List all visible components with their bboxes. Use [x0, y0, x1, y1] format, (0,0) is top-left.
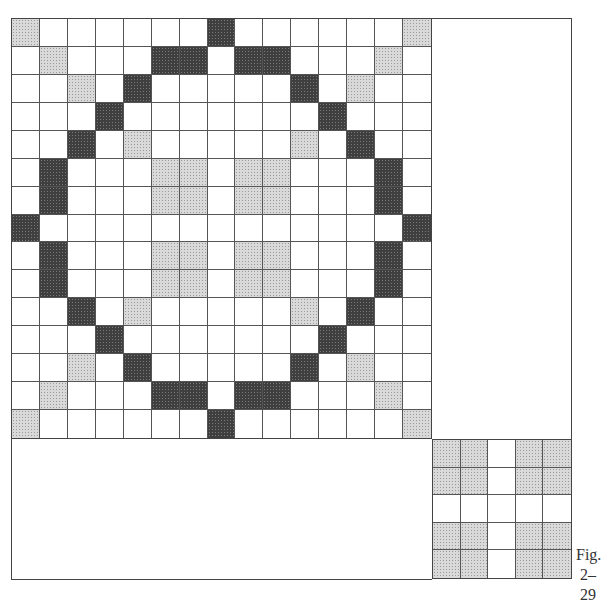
empty-cell	[208, 131, 236, 159]
empty-cell	[319, 47, 347, 75]
empty-cell	[124, 19, 152, 47]
empty-cell	[319, 159, 347, 187]
dark-cell	[68, 131, 96, 159]
light-cell	[124, 131, 152, 159]
empty-cell	[40, 326, 68, 354]
empty-cell	[40, 75, 68, 103]
empty-cell	[291, 382, 319, 410]
empty-cell	[124, 410, 152, 438]
dark-cell	[124, 75, 152, 103]
empty-cell	[403, 159, 431, 187]
dark-cell	[375, 242, 403, 270]
light-cell	[403, 19, 431, 47]
light-cell	[291, 298, 319, 326]
dark-cell	[235, 382, 263, 410]
empty-cell	[40, 354, 68, 382]
light-cell	[461, 523, 489, 551]
empty-cell	[403, 382, 431, 410]
empty-cell	[347, 47, 375, 75]
dark-cell	[347, 131, 375, 159]
light-cell	[347, 354, 375, 382]
empty-cell	[403, 298, 431, 326]
empty-cell	[488, 550, 516, 578]
light-cell	[291, 131, 319, 159]
empty-cell	[347, 270, 375, 298]
empty-cell	[208, 47, 236, 75]
empty-cell	[68, 382, 96, 410]
empty-cell	[347, 159, 375, 187]
light-cell	[461, 468, 489, 496]
empty-cell	[347, 215, 375, 243]
empty-cell	[40, 298, 68, 326]
empty-cell	[291, 47, 319, 75]
empty-cell	[375, 131, 403, 159]
empty-cell	[180, 131, 208, 159]
empty-cell	[180, 103, 208, 131]
empty-cell	[319, 354, 347, 382]
light-cell	[40, 47, 68, 75]
empty-cell	[12, 270, 40, 298]
empty-cell	[96, 354, 124, 382]
dark-cell	[40, 270, 68, 298]
empty-cell	[403, 47, 431, 75]
light-cell	[152, 159, 180, 187]
empty-cell	[235, 215, 263, 243]
empty-cell	[96, 242, 124, 270]
empty-cell	[543, 495, 571, 523]
dark-cell	[208, 410, 236, 438]
dark-cell	[291, 354, 319, 382]
light-cell	[461, 440, 489, 468]
dark-cell	[263, 382, 291, 410]
light-cell	[516, 523, 544, 551]
dark-cell	[124, 354, 152, 382]
empty-cell	[96, 75, 124, 103]
empty-cell	[319, 382, 347, 410]
empty-cell	[12, 326, 40, 354]
dark-cell	[96, 326, 124, 354]
empty-cell	[403, 131, 431, 159]
empty-cell	[291, 242, 319, 270]
light-cell	[543, 440, 571, 468]
empty-cell	[12, 75, 40, 103]
empty-cell	[124, 382, 152, 410]
empty-cell	[375, 354, 403, 382]
empty-cell	[208, 103, 236, 131]
empty-cell	[40, 410, 68, 438]
empty-cell	[68, 410, 96, 438]
light-cell	[12, 19, 40, 47]
empty-cell	[12, 354, 40, 382]
empty-cell	[235, 19, 263, 47]
empty-cell	[40, 215, 68, 243]
empty-cell	[124, 47, 152, 75]
empty-cell	[152, 298, 180, 326]
empty-cell	[208, 242, 236, 270]
empty-cell	[68, 242, 96, 270]
dark-cell	[180, 47, 208, 75]
light-cell	[543, 523, 571, 551]
light-cell	[263, 187, 291, 215]
light-cell	[263, 159, 291, 187]
dark-cell	[403, 215, 431, 243]
light-cell	[461, 550, 489, 578]
empty-cell	[375, 19, 403, 47]
empty-cell	[152, 75, 180, 103]
empty-cell	[488, 468, 516, 496]
empty-cell	[180, 75, 208, 103]
empty-cell	[263, 354, 291, 382]
empty-cell	[208, 298, 236, 326]
light-cell	[40, 382, 68, 410]
empty-cell	[152, 131, 180, 159]
light-cell	[180, 242, 208, 270]
empty-cell	[68, 215, 96, 243]
dark-cell	[375, 187, 403, 215]
empty-cell	[124, 270, 152, 298]
empty-cell	[319, 242, 347, 270]
light-cell	[263, 270, 291, 298]
empty-cell	[208, 215, 236, 243]
caption-fig-label: Fig.	[576, 545, 610, 565]
light-cell	[235, 242, 263, 270]
empty-cell	[152, 19, 180, 47]
light-cell	[516, 440, 544, 468]
light-cell	[152, 242, 180, 270]
empty-cell	[40, 131, 68, 159]
